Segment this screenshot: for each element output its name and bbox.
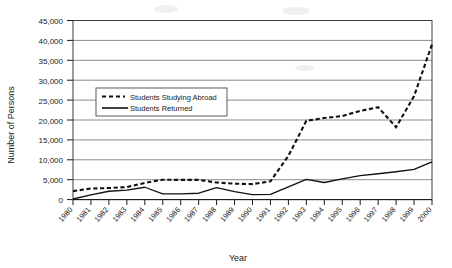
x-tick-label: 1987 <box>182 205 200 223</box>
y-tick-label: 10,000 <box>39 156 64 165</box>
x-tick-label: 1984 <box>128 205 146 223</box>
x-tick-label: 1985 <box>146 205 164 223</box>
x-tick-label: 1980 <box>57 205 75 223</box>
y-axis-title: Number of Persons <box>6 86 16 164</box>
x-tick-label: 1983 <box>110 205 128 223</box>
y-tick-label: 20,000 <box>39 117 64 126</box>
series-line-students-returned <box>73 162 432 199</box>
x-tick-label: 1993 <box>290 205 308 223</box>
legend-label-abroad: Students Studying Abroad <box>130 93 217 102</box>
x-tick-labels: 1980 1981 1982 1983 1984 1985 1986 1987 … <box>57 205 434 223</box>
x-tick-label: 1986 <box>164 205 182 223</box>
y-tick-labels: 45,000 40,000 35,000 30,000 25,000 20,00… <box>39 17 64 205</box>
x-tick-label: 1990 <box>236 205 254 223</box>
line-chart: Number of Persons 45,000 40,000 35,000 3… <box>0 0 452 268</box>
y-tick-label: 45,000 <box>39 17 64 26</box>
x-tick-label: 1991 <box>254 205 272 223</box>
y-tick-label: 35,000 <box>39 57 64 66</box>
scan-artifact <box>295 65 315 71</box>
y-tick-label: 5,000 <box>43 176 64 185</box>
x-tick-label: 1998 <box>380 205 398 223</box>
chart-legend: Students Studying Abroad Students Return… <box>96 88 227 116</box>
y-tick-label: 30,000 <box>39 77 64 86</box>
y-tick-label: 0 <box>59 196 64 205</box>
x-tick-marks <box>73 200 432 205</box>
x-tick-label: 1996 <box>344 205 362 223</box>
x-tick-label: 1997 <box>362 205 380 223</box>
x-tick-label: 1981 <box>75 205 93 223</box>
y-tick-label: 40,000 <box>39 37 64 46</box>
series-line-students-studying-abroad <box>73 44 432 191</box>
x-tick-label: 1995 <box>326 205 344 223</box>
x-tick-label: 1992 <box>272 205 290 223</box>
x-tick-label: 1982 <box>93 205 111 223</box>
scan-artifact <box>154 5 178 13</box>
chart-figure: Number of Persons 45,000 40,000 35,000 3… <box>0 0 452 268</box>
scan-artifact <box>282 7 310 15</box>
y-tick-label: 15,000 <box>39 136 64 145</box>
legend-label-returned: Students Returned <box>130 104 193 113</box>
x-axis-title: Year <box>229 253 247 263</box>
x-tick-label: 1988 <box>200 205 218 223</box>
y-tick-marks <box>67 21 73 200</box>
x-tick-label: 2000 <box>416 205 434 223</box>
y-tick-label: 25,000 <box>39 97 64 106</box>
x-tick-label: 1999 <box>398 205 416 223</box>
x-tick-label: 1989 <box>218 205 236 223</box>
x-tick-label: 1994 <box>308 205 326 223</box>
